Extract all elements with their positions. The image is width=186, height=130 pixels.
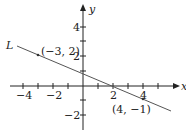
line-name-label: L [5, 39, 13, 52]
x-tick-label: −2 [46, 89, 62, 102]
y-axis-arrow-icon [80, 4, 86, 11]
y-axis-label: y [88, 3, 96, 16]
line-L: L (−3, 2) (4, −1) [5, 39, 171, 116]
x-axis-arrow-icon [173, 83, 180, 89]
x-axis: x −4 −2 2 4 [10, 80, 186, 102]
point-label: (−3, 2) [41, 45, 80, 58]
point-marker [37, 54, 40, 57]
y-axis: y 4 2 −2 [64, 3, 96, 130]
coordinate-plane: x −4 −2 2 4 y 4 2 [0, 0, 186, 130]
x-tick-label: 2 [110, 89, 117, 102]
y-tick-label: 4 [73, 21, 80, 34]
x-tick-label: −4 [16, 89, 32, 102]
point-marker [142, 98, 145, 101]
point-label: (4, −1) [112, 103, 151, 116]
x-axis-label: x [181, 80, 186, 93]
y-tick-label: −2 [64, 109, 80, 122]
